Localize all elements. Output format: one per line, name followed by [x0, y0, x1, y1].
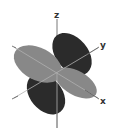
- z-axis-label: z: [54, 10, 59, 20]
- x-axis-label: x: [100, 96, 106, 106]
- y-axis-label: y: [100, 40, 106, 50]
- orbital-diagram: z y x: [0, 0, 116, 136]
- y-axis-outer-left: [12, 96, 18, 99]
- x-axis-outer-left: [12, 46, 16, 48]
